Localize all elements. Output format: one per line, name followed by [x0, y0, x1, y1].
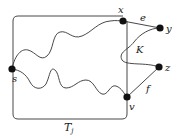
graph-diagram: x e y K z f v s Tj [0, 0, 180, 140]
edge-f [127, 67, 159, 97]
label-z: z [164, 62, 171, 73]
node-z [155, 63, 162, 70]
label-y: y [165, 23, 172, 34]
label-s: s [12, 73, 17, 84]
label-x: x [118, 4, 124, 15]
label-f: f [145, 83, 152, 94]
node-y [156, 24, 163, 31]
node-s [8, 65, 15, 72]
region-tj-boundary [13, 16, 127, 119]
node-v [123, 93, 130, 100]
label-k: K [135, 44, 144, 55]
path-s-to-v [12, 69, 127, 97]
label-tj: Tj [64, 121, 74, 135]
label-e: e [140, 12, 146, 23]
path-s-to-x [12, 21, 123, 69]
node-x [119, 17, 126, 24]
label-v: v [129, 101, 135, 112]
